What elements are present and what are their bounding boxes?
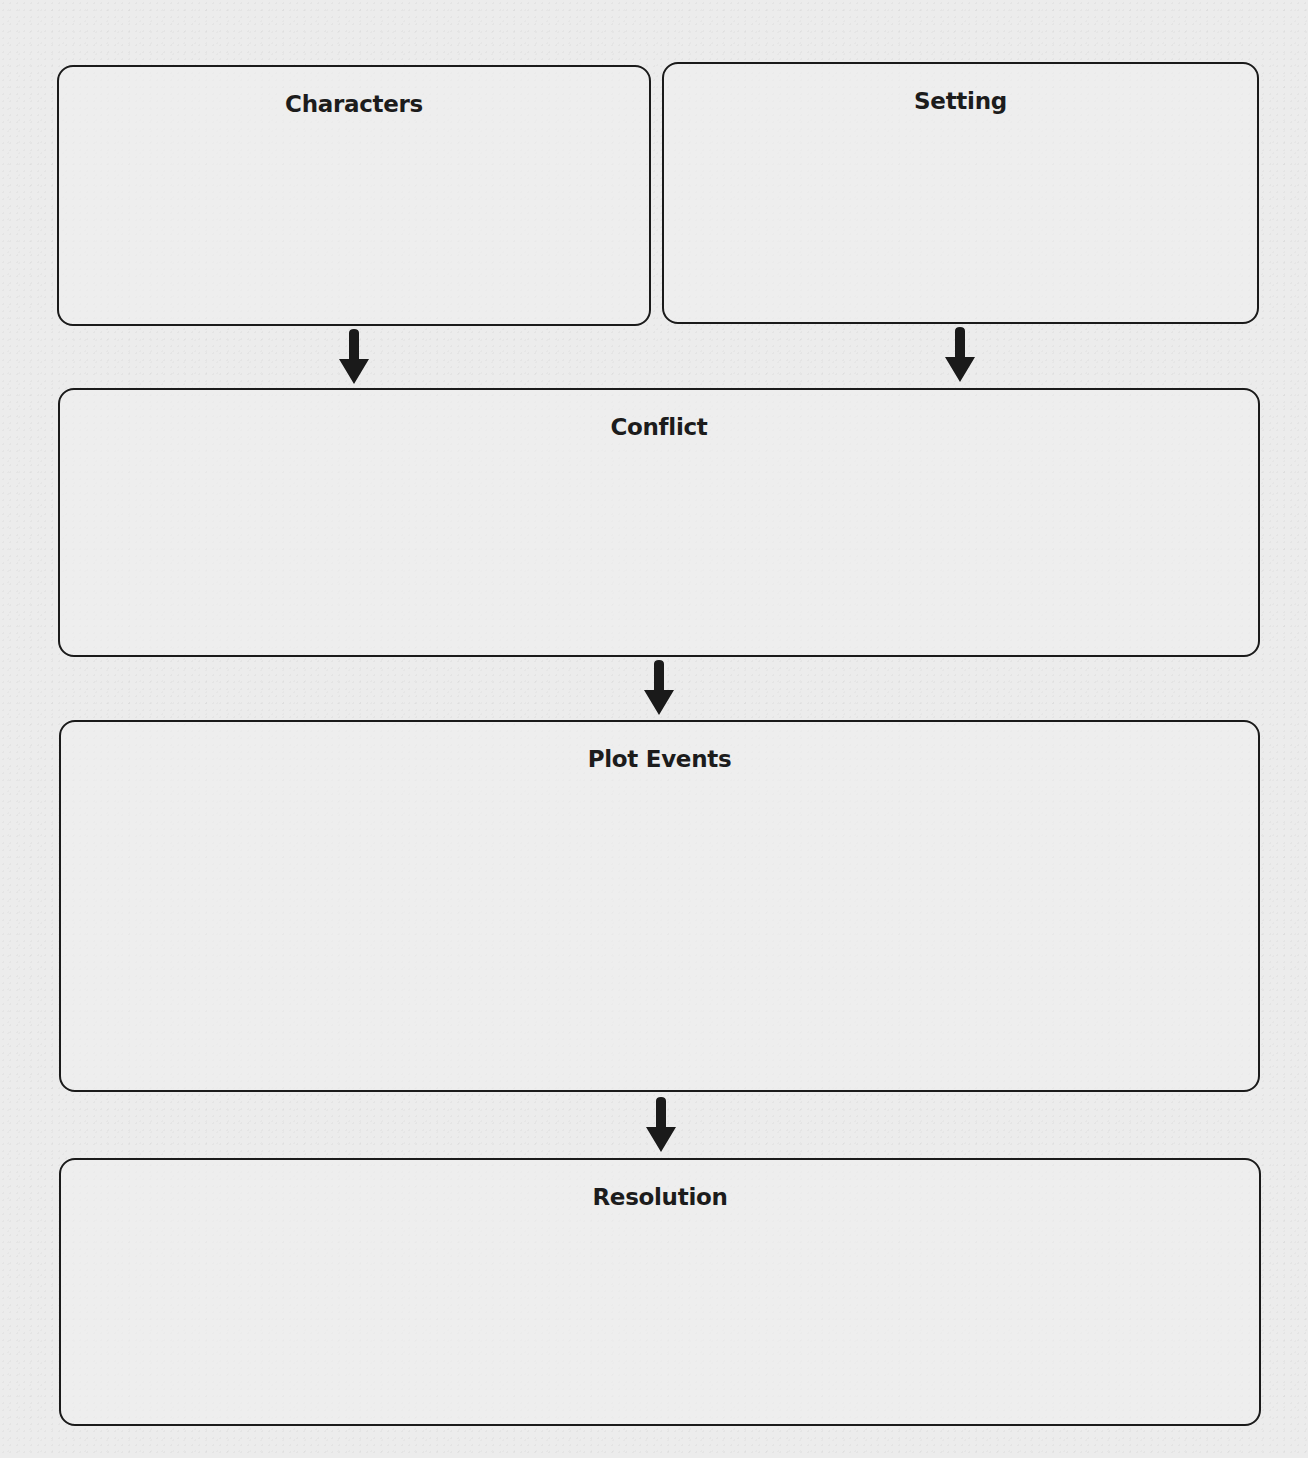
plot-events-box[interactable]: Plot Events [59,720,1260,1092]
arrow-down-icon [337,329,371,385]
conflict-box[interactable]: Conflict [58,388,1260,657]
setting-heading: Setting [664,88,1257,114]
characters-heading: Characters [59,91,649,117]
characters-box[interactable]: Characters [57,65,651,326]
arrow-down-icon [642,660,676,716]
arrow-down-icon [943,327,977,383]
plot-events-heading: Plot Events [61,746,1258,772]
arrow-down-icon [644,1097,678,1153]
resolution-box[interactable]: Resolution [59,1158,1261,1426]
resolution-heading: Resolution [61,1184,1259,1210]
setting-box[interactable]: Setting [662,62,1259,324]
conflict-heading: Conflict [60,414,1258,440]
